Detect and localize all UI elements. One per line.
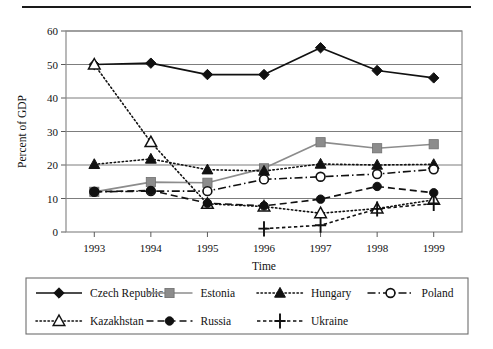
marker-russia [316,195,324,203]
figure-container: 0102030405060199319941995199619971998199… [0,0,493,349]
x-tick-label: 1998 [366,242,389,254]
series-czech-republic [89,43,439,84]
marker-czech-republic [54,288,64,298]
marker-czech-republic [202,69,212,79]
marker-kazakhstan [145,136,157,146]
marker-estonia [316,138,325,147]
series-ukraine [258,196,439,236]
legend-label-estonia: Estonia [201,287,236,299]
marker-estonia [165,288,174,297]
marker-russia [203,199,211,207]
marker-czech-republic [372,65,382,75]
marker-estonia [146,177,155,186]
series-russia [90,182,438,210]
marker-russia [430,189,438,197]
marker-poland [429,165,438,174]
y-axis-title: Percent of GDP [16,95,28,168]
marker-poland [373,170,382,179]
x-tick-label: 1994 [140,242,163,254]
x-tick-label: 1995 [196,242,219,254]
marker-poland [260,175,269,184]
marker-russia [147,186,155,194]
legend-label-hungary: Hungary [311,287,351,300]
marker-russia [90,188,98,196]
marker-ukraine [274,314,285,329]
legend-label-ukraine: Ukraine [311,315,348,327]
marker-estonia [373,144,382,153]
marker-russia [260,202,268,210]
legend-item-hungary[interactable]: Hungary [257,287,351,300]
marker-ukraine [315,218,326,233]
marker-russia [165,317,173,325]
legend-label-russia: Russia [201,315,232,327]
marker-kazakhstan [53,315,65,325]
x-tick-label: 1997 [310,242,333,254]
legend-item-czech-republic[interactable]: Czech Republic [36,287,163,300]
y-tick-label: 40 [47,92,59,104]
marker-czech-republic [315,43,325,53]
legend-item-russia[interactable]: Russia [147,315,232,327]
marker-hungary [145,153,156,163]
line-chart: 0102030405060199319941995199619971998199… [0,0,493,349]
marker-hungary [202,164,213,174]
marker-hungary [275,287,286,297]
x-tick-label: 1993 [83,242,106,254]
marker-poland [386,289,395,298]
y-tick-label: 10 [47,193,59,205]
y-tick-label: 50 [47,59,59,71]
series-kazakhstan [88,59,439,218]
chart-plot-wrapper: 0102030405060199319941995199619971998199… [0,0,493,349]
x-tick-label: 1996 [253,242,276,254]
marker-hungary [315,158,326,168]
marker-poland [203,187,212,196]
y-tick-label: 0 [53,226,59,238]
legend-item-kazakhstan[interactable]: Kazakhstan [36,315,144,327]
y-tick-label: 60 [47,25,59,37]
x-tick-label: 1999 [423,242,446,254]
x-axis-title: Time [252,260,276,272]
legend: Czech RepublicEstoniaHungaryPolandKazakh… [26,278,468,334]
marker-poland [316,172,325,181]
marker-ukraine [258,221,269,236]
y-tick-label: 30 [47,126,59,138]
marker-estonia [429,140,438,149]
marker-ukraine [372,201,383,216]
y-tick-label: 20 [47,159,59,171]
legend-item-poland[interactable]: Poland [368,287,454,299]
legend-item-ukraine[interactable]: Ukraine [257,314,348,329]
marker-czech-republic [429,73,439,83]
marker-czech-republic [259,69,269,79]
marker-czech-republic [146,58,156,68]
legend-label-kazakhstan: Kazakhstan [90,315,144,327]
line-ukraine [264,204,434,229]
legend-label-poland: Poland [422,287,454,299]
marker-russia [373,182,381,190]
